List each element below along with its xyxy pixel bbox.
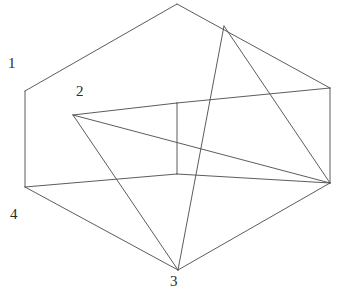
vertex-label-4: 4 xyxy=(10,207,18,222)
inner-rim-left xyxy=(73,103,177,115)
rim-top-right xyxy=(177,4,330,88)
base-left xyxy=(25,187,178,270)
line-group xyxy=(25,4,330,270)
vertex-label-3: 3 xyxy=(170,274,178,289)
inner-floor-left xyxy=(25,174,177,187)
inner-rim-right xyxy=(177,88,330,103)
figure-root: 1234 xyxy=(0,0,337,296)
base-right xyxy=(178,183,330,270)
box-line-drawing xyxy=(0,0,337,296)
vertex-label-1: 1 xyxy=(8,56,16,71)
inner-floor-right xyxy=(177,174,330,183)
rim-top-left xyxy=(25,4,177,91)
vertex-label-2: 2 xyxy=(76,84,84,99)
diagonal-rimright-to-bottomapex xyxy=(178,26,224,270)
